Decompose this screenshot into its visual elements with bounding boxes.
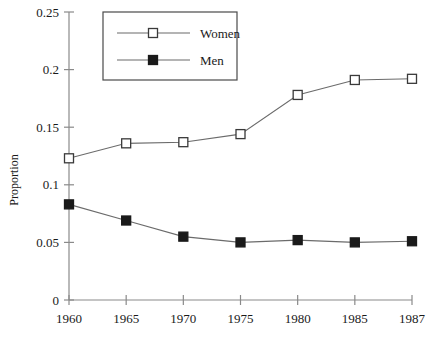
y-tick-label: 0.15 bbox=[36, 120, 59, 135]
chart-container: 00.050.10.150.20.25 19601965197019751980… bbox=[0, 0, 433, 341]
data-point-marker bbox=[65, 200, 74, 209]
data-point-marker bbox=[122, 139, 131, 148]
data-point-marker bbox=[293, 90, 302, 99]
x-tick-label: 1975 bbox=[228, 311, 254, 326]
legend-label: Men bbox=[200, 53, 224, 68]
legend-label: Women bbox=[200, 26, 241, 41]
x-tick-label: 1987 bbox=[399, 311, 426, 326]
data-point-marker bbox=[236, 238, 245, 247]
data-point-marker bbox=[65, 154, 74, 163]
x-tick-label: 1985 bbox=[342, 311, 368, 326]
data-point-marker bbox=[293, 236, 302, 245]
legend-marker-swatch bbox=[149, 29, 158, 38]
y-tick-label: 0.2 bbox=[43, 62, 59, 77]
y-tick-label: 0 bbox=[53, 293, 60, 308]
data-point-marker bbox=[350, 75, 359, 84]
x-tick-label: 1970 bbox=[170, 311, 196, 326]
data-point-marker bbox=[350, 238, 359, 247]
y-tick-label: 0.1 bbox=[43, 177, 59, 192]
data-point-marker bbox=[122, 216, 131, 225]
y-tick-label: 0.05 bbox=[36, 235, 59, 250]
data-point-marker bbox=[179, 232, 188, 241]
x-tick-label: 1960 bbox=[56, 311, 82, 326]
legend-marker-swatch bbox=[149, 56, 158, 65]
data-point-marker bbox=[408, 237, 417, 246]
data-point-marker bbox=[179, 138, 188, 147]
data-point-marker bbox=[236, 130, 245, 139]
data-point-marker bbox=[408, 74, 417, 83]
legend-box bbox=[103, 12, 237, 80]
y-axis-title: Proportion bbox=[7, 154, 21, 205]
x-tick-label: 1980 bbox=[285, 311, 311, 326]
y-tick-label: 0.25 bbox=[36, 5, 59, 20]
line-chart: 00.050.10.150.20.25 19601965197019751980… bbox=[0, 0, 433, 341]
chart-legend: WomenMen bbox=[103, 12, 241, 80]
x-tick-label: 1965 bbox=[113, 311, 139, 326]
